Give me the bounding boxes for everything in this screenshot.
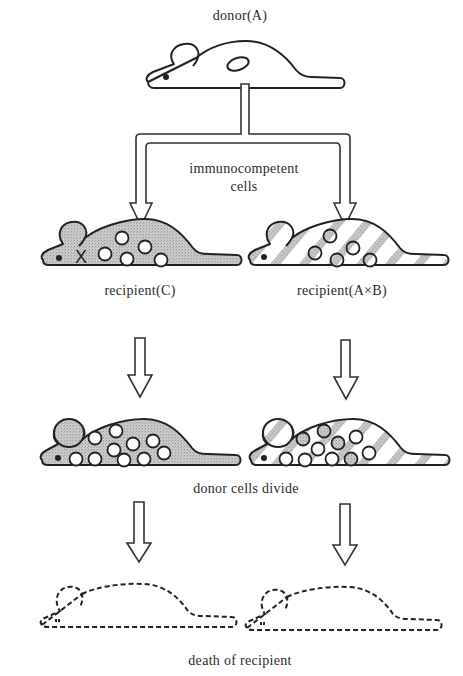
donor-label: donor(A)	[213, 8, 268, 24]
eye-icon	[56, 255, 62, 261]
arrow-left-2	[127, 502, 151, 562]
recipient-axb-label: recipient(A×B)	[297, 283, 387, 299]
transfer-arrow	[130, 84, 356, 226]
dead-recipient-left	[41, 584, 237, 627]
recipient-c-label: recipient(C)	[104, 283, 175, 299]
transfer-label-line2: cells	[230, 179, 257, 195]
recipient-axb-mouse	[249, 219, 449, 267]
recipient-c-divided-mouse	[41, 419, 241, 467]
death-of-recipient-label: death of recipient	[188, 653, 291, 669]
eye-icon	[163, 74, 169, 80]
recipient-c-mouse: X	[42, 219, 242, 267]
closed-eye-icon	[56, 619, 59, 622]
closed-eye-icon	[261, 622, 264, 625]
dead-recipient-right	[246, 587, 442, 630]
donor-cells-divide-label: donor cells divide	[193, 481, 299, 497]
arrow-right-1	[334, 340, 358, 399]
recipient-axb-divided-mouse	[250, 419, 450, 467]
transfer-label: immunocompetent	[189, 161, 298, 177]
donor-mouse	[147, 41, 345, 88]
eye-icon	[261, 254, 267, 260]
arrow-right-2	[333, 504, 357, 565]
eye-icon	[55, 455, 61, 461]
diagram-canvas: X	[0, 0, 463, 676]
eye-icon	[261, 455, 267, 461]
rejection-x-mark: X	[75, 247, 87, 267]
arrow-left-1	[128, 338, 152, 397]
